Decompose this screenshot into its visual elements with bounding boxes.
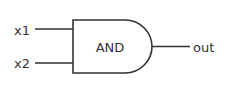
input-label-x2: x2 [14,56,30,71]
output-label: out [193,40,214,55]
input-label-x1: x1 [14,23,30,38]
and-gate-diagram: x1 x2 AND out [0,0,235,87]
gate-label: AND [96,40,125,55]
